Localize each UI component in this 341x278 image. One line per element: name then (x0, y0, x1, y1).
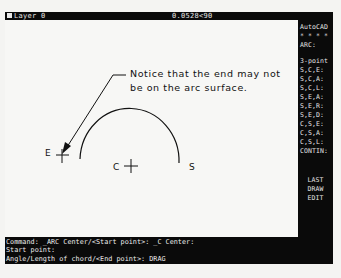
command-input-line[interactable]: Angle/Length of chord/<End point>: DRAG (5, 255, 333, 263)
annotation-line-2: be on the arc surface. (130, 82, 247, 93)
menu-item-s-e-a[interactable]: S,E,A: (300, 93, 324, 102)
menu-title-autocad[interactable]: AutoCAD (300, 23, 328, 32)
start-point-label: S (189, 162, 195, 172)
command-history-line: Command: _ARC Center/<Start point>: _C C… (5, 238, 333, 246)
menu-item-3-point[interactable]: 3-point (300, 57, 328, 66)
center-crosshair-icon (124, 159, 138, 173)
menu-item-c-s-e[interactable]: C,S,E: (300, 120, 324, 129)
center-point-label: C (113, 162, 119, 172)
menu-item-c-s-l[interactable]: C,S,L: (300, 138, 324, 147)
drawing-canvas (5, 20, 298, 237)
menu-item-draw[interactable]: DRAW (298, 185, 333, 194)
status-bar: Layer 0 0.0528<90 (5, 12, 333, 20)
layer-color-swatch[interactable] (7, 13, 12, 18)
leader-arrow-icon (62, 75, 126, 154)
menu-item-contin[interactable]: CONTIN: (300, 147, 328, 156)
end-crosshair-icon (56, 149, 69, 163)
menu-item-edit[interactable]: EDIT (298, 194, 333, 203)
autocad-screen: Layer 0 0.0528<90 Notice that the e (5, 12, 333, 264)
drawing-area[interactable]: Notice that the end may not be on the ar… (5, 20, 298, 237)
menu-item-s-c-a[interactable]: S,C,A: (300, 75, 324, 84)
menu-item-s-e-r[interactable]: S,E,R: (300, 102, 324, 111)
menu-item-c-s-a[interactable]: C,S,A: (300, 129, 324, 138)
command-history-line: Start point: (5, 246, 333, 254)
menu-item-s-c-l[interactable]: S,C,L: (300, 84, 324, 93)
menu-item-last[interactable]: LAST (298, 176, 333, 185)
coordinate-display[interactable]: 0.0528<90 (172, 12, 213, 20)
menu-item-s-e-d[interactable]: S,E,D: (300, 111, 324, 120)
screen-menu: AutoCAD * * * * ARC: 3-point S,C,E: S,C,… (298, 20, 333, 237)
arc-entity (80, 108, 179, 163)
annotation-line-1: Notice that the end may not (130, 68, 281, 79)
layer-name[interactable]: Layer 0 (14, 12, 46, 20)
end-point-label: E (45, 148, 51, 158)
menu-separator[interactable]: * * * * (300, 32, 328, 41)
menu-item-s-c-e[interactable]: S,C,E: (300, 66, 324, 75)
menu-header-arc[interactable]: ARC: (300, 41, 316, 50)
command-prompt-area[interactable]: Command: _ARC Center/<Start point>: _C C… (5, 237, 333, 264)
